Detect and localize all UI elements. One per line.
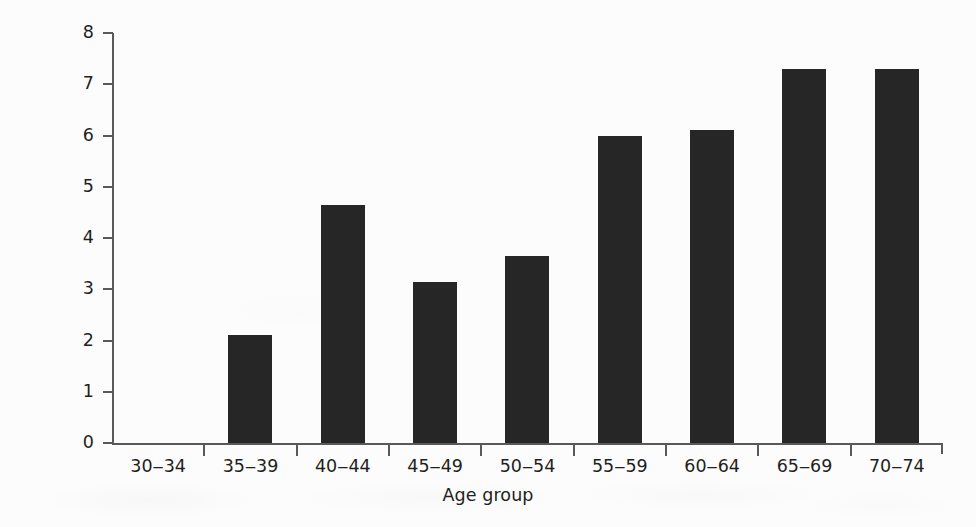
bar [505, 256, 549, 443]
bar [782, 69, 826, 443]
bar-slot [204, 33, 296, 443]
bar [598, 136, 642, 444]
bar-slot [112, 33, 204, 443]
x-axis-category-label: 70‒74 [851, 458, 943, 476]
bar-slot [574, 33, 666, 443]
x-axis-category-label: 60‒64 [666, 458, 758, 476]
y-axis-tick-label: 2 [54, 332, 94, 350]
bar-slot [297, 33, 389, 443]
bar [321, 205, 365, 443]
x-axis-title: Age group [0, 485, 976, 505]
bar-slot [666, 33, 758, 443]
plot-area [112, 33, 943, 443]
x-axis-end-cap [941, 443, 943, 454]
x-axis-category-label: 40‒44 [297, 458, 389, 476]
bar-slot [389, 33, 481, 443]
y-axis-tick-label: 4 [54, 229, 94, 247]
y-axis-tick-label: 5 [54, 178, 94, 196]
x-axis-tick-mark [203, 445, 205, 456]
y-axis-tick-label: 3 [54, 280, 94, 298]
x-axis-tick-mark [757, 445, 759, 456]
y-axis-tick-label: 1 [54, 383, 94, 401]
x-axis-line [112, 443, 943, 445]
bar-slot [758, 33, 850, 443]
y-axis-tick-label: 6 [54, 127, 94, 145]
bar [228, 335, 272, 443]
bar [413, 282, 457, 443]
bar-slot [851, 33, 943, 443]
bar-slot [481, 33, 573, 443]
y-axis-tick-label: 0 [54, 434, 94, 452]
x-axis-category-label: 45‒49 [389, 458, 481, 476]
x-axis-tick-mark [665, 445, 667, 456]
y-axis-tick-label: 7 [54, 75, 94, 93]
x-axis-category-label: 30‒34 [112, 458, 204, 476]
x-axis-tick-mark [850, 445, 852, 456]
x-axis-category-label: 35‒39 [204, 458, 296, 476]
x-axis-tick-mark [296, 445, 298, 456]
x-axis-tick-mark [573, 445, 575, 456]
bar-chart-figure: Incidence/1000/year 012345678 30‒3435‒39… [0, 0, 976, 527]
y-axis-tick-label: 8 [54, 24, 94, 42]
bar [690, 130, 734, 443]
x-axis-category-label: 50‒54 [481, 458, 573, 476]
x-axis-category-label: 65‒69 [758, 458, 850, 476]
x-axis-tick-mark [388, 445, 390, 456]
bar [875, 69, 919, 443]
x-axis-tick-mark [480, 445, 482, 456]
x-axis-category-label: 55‒59 [574, 458, 666, 476]
